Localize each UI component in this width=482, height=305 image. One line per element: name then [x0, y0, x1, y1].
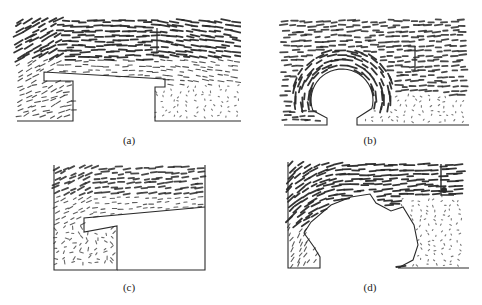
vector-field-plot-b [241, 0, 482, 150]
caption-c: (c) [109, 281, 149, 293]
panel-d: (d) [241, 150, 482, 305]
caption-b: (b) [350, 134, 390, 146]
panel-a: (a) [0, 0, 241, 150]
caption-a: (a) [109, 134, 149, 146]
caption-d: (d) [350, 281, 390, 293]
panel-c: (c) [0, 150, 241, 305]
panel-b: (b) [241, 0, 482, 150]
vector-field-plot-a [0, 0, 241, 150]
